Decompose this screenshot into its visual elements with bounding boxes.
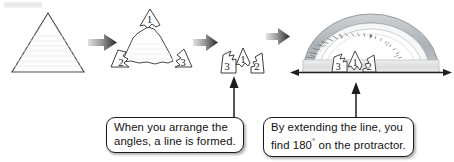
arranged-label-3: 3 xyxy=(224,60,230,72)
angle-label-3: 3 xyxy=(180,56,186,68)
callout-extend-measure-pre: find 180 xyxy=(271,138,312,150)
arranged-label-1: 1 xyxy=(240,53,246,65)
callout-extend-measure-post: on the protractor. xyxy=(315,138,405,150)
arrow-2 xyxy=(193,34,218,51)
callout-extend: By extending the line, you find 180° on … xyxy=(263,117,414,157)
protractor-center-mark xyxy=(370,35,372,37)
figure-canvas: 1 2 3 3 1 2 xyxy=(0,0,454,162)
protractor-label-1: 1 xyxy=(352,57,357,68)
protractor-label-2: 2 xyxy=(366,61,371,72)
callout-pointer-arrange xyxy=(230,76,239,118)
angle-label-2: 2 xyxy=(118,56,124,68)
arrowhead-left xyxy=(290,69,299,76)
torn-corner-1: 1 xyxy=(140,9,160,28)
callout-pointer-extend xyxy=(352,82,361,118)
protractor-corner-3: 3 xyxy=(332,54,347,72)
torn-corner-3: 3 xyxy=(175,49,192,68)
step-protractor: 3 1 2 xyxy=(290,14,452,76)
callout-extend-line2: find 180° on the protractor. xyxy=(271,135,406,152)
callout-arrange: When you arrange the angles, a line is f… xyxy=(106,117,244,153)
arrow-3 xyxy=(266,28,290,45)
step-arranged-corners: 3 1 2 xyxy=(221,48,264,73)
step-whole-triangle xyxy=(12,13,84,72)
callout-arrange-line1: When you arrange the xyxy=(114,121,236,135)
arrowhead-right xyxy=(443,69,452,76)
angle-label-1: 1 xyxy=(147,13,153,25)
callout-arrange-line2: angles, a line is formed. xyxy=(114,135,236,149)
arrow-1 xyxy=(88,34,117,51)
step-torn-triangle: 1 2 3 xyxy=(111,9,192,68)
arrowhead-up-1 xyxy=(230,76,239,88)
arranged-label-2: 2 xyxy=(254,60,260,72)
protractor-label-3: 3 xyxy=(335,61,340,72)
callout-extend-line1: By extending the line, you xyxy=(271,121,406,135)
arrowhead-up-2 xyxy=(352,82,361,94)
